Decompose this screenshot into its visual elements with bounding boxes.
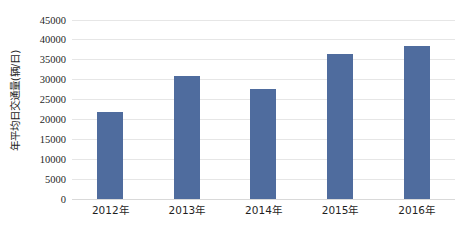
bar-slot	[225, 20, 302, 200]
plot-area	[72, 20, 455, 200]
bar[interactable]	[327, 54, 353, 199]
y-axis-tick-label: 20000	[40, 114, 66, 125]
bar-slot	[72, 20, 149, 200]
y-axis-tick-label: 15000	[40, 134, 66, 145]
bar-chart: 年平均日交通量(辆/日) 450004000035000300002500020…	[0, 0, 467, 236]
bar[interactable]	[174, 76, 200, 199]
y-axis-tick-label: 25000	[40, 94, 66, 105]
bar-slot	[149, 20, 226, 200]
y-axis-tick-label: 5000	[45, 174, 66, 185]
x-axis-tick-label: 2016年	[378, 201, 455, 221]
y-axis-tick-label: 40000	[40, 34, 66, 45]
bar-slot	[378, 20, 455, 200]
y-axis-tick-label: 45000	[40, 14, 66, 25]
y-axis-title-label: 年平均日交通量(辆/日)	[8, 49, 23, 151]
x-axis-tick-label: 2015年	[302, 201, 379, 221]
y-axis-tick-labels: 4500040000350003000025000200001500010000…	[28, 20, 72, 200]
x-axis-tick-label: 2013年	[149, 201, 226, 221]
bar[interactable]	[404, 46, 430, 199]
bar[interactable]	[97, 112, 123, 199]
bars-layer	[72, 20, 455, 200]
y-axis-title: 年平均日交通量(辆/日)	[0, 0, 30, 200]
y-axis-tick-label: 35000	[40, 54, 66, 65]
bar[interactable]	[250, 89, 276, 199]
y-axis-tick-label: 0	[61, 194, 66, 205]
y-axis-tick-label: 10000	[40, 154, 66, 165]
gridline	[72, 199, 455, 200]
x-axis-tick-labels: 2012年2013年2014年2015年2016年	[72, 201, 455, 221]
bar-slot	[302, 20, 379, 200]
x-axis-tick-label: 2014年	[225, 201, 302, 221]
x-axis-tick-label: 2012年	[72, 201, 149, 221]
y-axis-tick-label: 30000	[40, 74, 66, 85]
